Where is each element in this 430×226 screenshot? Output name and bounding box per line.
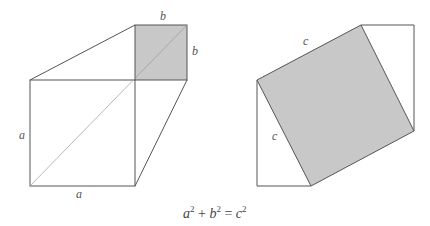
pythagorean-diagram	[0, 0, 430, 226]
left-figure	[30, 25, 187, 186]
pythagorean-formula: a2 + b2 = c2	[183, 204, 247, 222]
label-c-left: c	[272, 130, 277, 142]
label-a-bottom: a	[76, 188, 82, 200]
formula-a: a	[183, 206, 190, 221]
formula-c-exponent: 2	[242, 204, 247, 214]
diagonal-line	[30, 25, 187, 186]
top-slant-line	[30, 25, 135, 80]
label-a-side: a	[19, 129, 25, 141]
label-b-top: b	[160, 10, 166, 22]
formula-equals: =	[221, 206, 236, 221]
right-slant-line	[135, 80, 187, 186]
formula-plus: +	[195, 206, 210, 221]
label-b-right: b	[192, 45, 198, 57]
label-c-top: c	[303, 35, 308, 47]
shaded-c-square	[257, 25, 414, 186]
right-figure	[257, 25, 414, 186]
